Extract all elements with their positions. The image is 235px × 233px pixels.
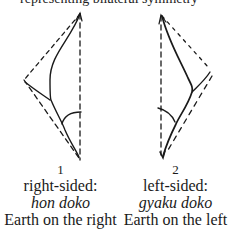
figure-2-caption: 2 left-sided: gyaku doko Earth on the le…: [117, 163, 234, 228]
figure-2-label: left-sided:: [117, 177, 234, 194]
figure-2-left-sided-diagram: [158, 15, 212, 158]
figure-1-label: right-sided:: [2, 177, 119, 194]
figure-1-number: 1: [2, 163, 119, 177]
figure-1-caption: 1 right-sided: hon doko Earth on the rig…: [2, 163, 119, 228]
figure-2-term: gyaku doko: [117, 194, 234, 211]
figure-1-term: hon doko: [2, 194, 119, 211]
figure-2-description: Earth on the left: [117, 211, 234, 228]
figure-1-description: Earth on the right: [2, 211, 119, 228]
figure-1-right-sided-diagram: [24, 13, 82, 160]
figure-2-number: 2: [117, 163, 234, 177]
